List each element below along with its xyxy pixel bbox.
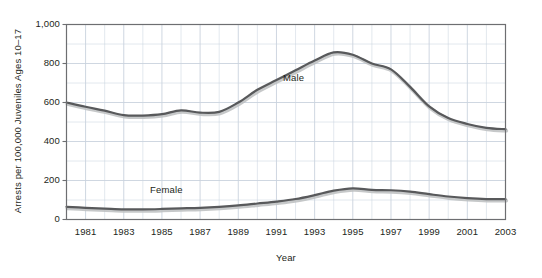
series-label-female: Female xyxy=(150,184,183,195)
series-label-male: Male xyxy=(283,72,304,83)
plot-area xyxy=(0,0,542,278)
gridlines-minor-horizontal xyxy=(67,44,506,200)
series-shadow-male xyxy=(67,54,506,131)
chart-container: Arrests per 100,000 Juveniles Ages 10–17… xyxy=(0,0,542,278)
series-line-female xyxy=(67,188,506,209)
